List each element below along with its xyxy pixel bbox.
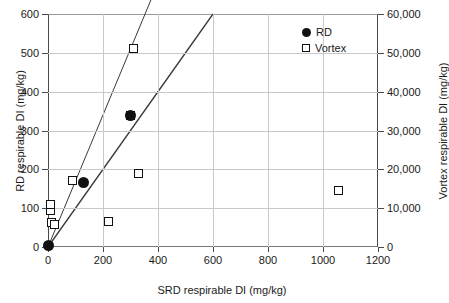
x-axis-tick xyxy=(103,247,104,252)
y-axis-left-tick-label: 500 xyxy=(21,47,39,59)
x-axis-tick xyxy=(323,247,324,252)
gridline-vertical xyxy=(158,14,159,247)
y-axis-right-tick xyxy=(378,131,384,132)
filled-circle-icon xyxy=(302,28,311,37)
y-axis-right-tick-label: 30,000 xyxy=(387,125,421,137)
y-axis-right-tick-label: 40,000 xyxy=(387,86,421,98)
y-axis-left-tick xyxy=(42,169,48,170)
y-axis-right-tick-label: 0 xyxy=(387,241,393,253)
data-point-vortex xyxy=(134,169,143,178)
y-axis-right-tick xyxy=(378,92,384,93)
x-axis-tick-label: 1000 xyxy=(311,254,335,266)
x-axis-tick xyxy=(268,247,269,252)
y-axis-left-tick xyxy=(42,131,48,132)
x-axis-tick-label: 800 xyxy=(259,254,277,266)
x-axis-tick-label: 0 xyxy=(45,254,51,266)
gridline-vertical xyxy=(268,14,269,247)
gridline-vertical xyxy=(213,14,214,247)
x-axis-tick xyxy=(213,247,214,252)
chart-legend: RD Vortex xyxy=(302,24,346,56)
data-point-vortex xyxy=(104,217,113,226)
data-point-vortex xyxy=(46,200,55,209)
y-axis-right-tick xyxy=(378,208,384,209)
y-axis-left-tick xyxy=(42,14,48,15)
data-point-vortex xyxy=(334,186,343,195)
x-axis-tick xyxy=(378,247,379,252)
y-axis-left-tick-label: 600 xyxy=(21,8,39,20)
legend-label-rd: RD xyxy=(316,26,332,38)
legend-label-vortex: Vortex xyxy=(315,42,346,54)
legend-item-vortex: Vortex xyxy=(302,40,346,56)
y-axis-right-tick-label: 50,000 xyxy=(387,47,421,59)
x-axis-tick-label: 1200 xyxy=(366,254,390,266)
y-axis-right-tick-label: 10,000 xyxy=(387,202,421,214)
y-axis-right-title: Vortex respirable DI (mg/kg) xyxy=(437,62,449,199)
gridline-vertical xyxy=(103,14,104,247)
y-axis-left-tick-label: 100 xyxy=(21,202,39,214)
x-axis-tick xyxy=(158,247,159,252)
y-axis-right-tick-label: 20,000 xyxy=(387,163,421,175)
vortex-trendline xyxy=(48,0,323,247)
legend-item-rd: RD xyxy=(302,24,346,40)
x-axis-tick-label: 200 xyxy=(94,254,112,266)
data-point-vortex xyxy=(50,220,59,229)
data-point-vortex xyxy=(129,44,138,53)
x-axis-tick-label: 400 xyxy=(149,254,167,266)
y-axis-right-tick xyxy=(378,14,384,15)
y-axis-left-tick xyxy=(42,92,48,93)
x-axis-title: SRD respirable DI (mg/kg) xyxy=(0,284,444,296)
y-axis-right-tick xyxy=(378,53,384,54)
y-axis-right-tick-label: 60,000 xyxy=(387,8,421,20)
x-axis-tick-label: 600 xyxy=(204,254,222,266)
open-square-icon xyxy=(302,44,310,52)
y-axis-right-tick xyxy=(378,169,384,170)
y-axis-left-tick xyxy=(42,53,48,54)
y-axis-left-title: RD respirable DI (mg/kg) xyxy=(14,70,26,192)
y-axis-left-tick-label: 0 xyxy=(33,241,39,253)
data-point-vortex xyxy=(68,176,77,185)
